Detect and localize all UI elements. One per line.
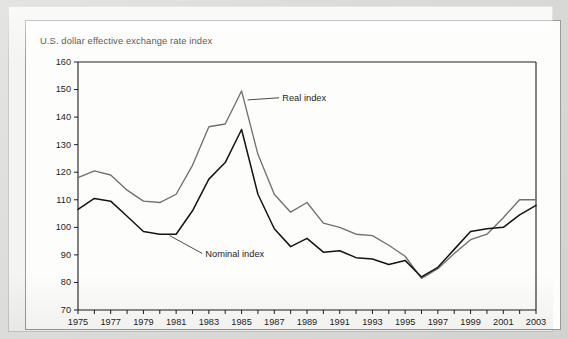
- y-tick-label: 90: [61, 250, 71, 260]
- x-tick-label: 1997: [428, 317, 448, 327]
- y-tick-label: 80: [61, 277, 71, 287]
- x-tick-label: 1999: [460, 317, 480, 327]
- scanned-page-background: U.S. dollar effective exchange rate inde…: [0, 0, 568, 339]
- nominal-index-label: Nominal index: [205, 249, 264, 259]
- x-axis-ticks: [78, 310, 536, 314]
- nominal-index-leader-line: [170, 236, 203, 254]
- y-tick-label: 70: [61, 305, 71, 315]
- x-tick-label: 1989: [297, 317, 317, 327]
- y-axis-tick-labels: 708090100110120130140150160: [56, 57, 71, 315]
- series-line-real-index: [78, 91, 536, 278]
- x-tick-label: 1983: [199, 317, 219, 327]
- data-series-layer: [78, 91, 536, 278]
- x-tick-label: 1995: [395, 317, 415, 327]
- y-tick-label: 120: [56, 167, 71, 177]
- x-tick-label: 1977: [100, 317, 120, 327]
- x-tick-label: 2001: [493, 317, 513, 327]
- real-index-leader-line: [248, 98, 280, 100]
- x-tick-label: 1985: [231, 317, 251, 327]
- y-tick-label: 140: [56, 112, 71, 122]
- y-tick-label: 110: [56, 195, 71, 205]
- x-tick-label: 1979: [133, 317, 153, 327]
- line-chart-plot: 708090100110120130140150160 197519771979…: [25, 20, 561, 330]
- y-axis-ticks: [74, 62, 78, 310]
- x-tick-label: 1991: [329, 317, 349, 327]
- x-tick-label: 1987: [264, 317, 284, 327]
- paper-surface: U.S. dollar effective exchange rate inde…: [8, 6, 553, 332]
- x-axis-tick-labels: 1975197719791981198319851987198919911993…: [68, 317, 546, 327]
- x-tick-label: 1993: [362, 317, 382, 327]
- chart-figure: U.S. dollar effective exchange rate inde…: [25, 20, 561, 330]
- real-index-label: Real index: [282, 93, 326, 103]
- x-tick-label: 1975: [68, 317, 88, 327]
- y-tick-label: 150: [56, 84, 71, 94]
- y-tick-label: 100: [56, 222, 71, 232]
- x-tick-label: 2003: [526, 317, 546, 327]
- y-tick-label: 160: [56, 57, 71, 67]
- y-tick-label: 130: [56, 140, 71, 150]
- x-tick-label: 1981: [166, 317, 186, 327]
